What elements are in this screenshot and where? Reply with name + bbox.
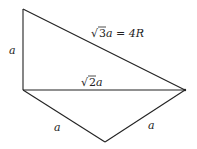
edge-left-bottom xyxy=(23,90,105,142)
label-bottom-left: a xyxy=(54,121,61,134)
label-left-edge: a xyxy=(9,44,16,57)
radicand: 3 xyxy=(99,27,106,40)
sqrt-symbol: √ xyxy=(81,76,89,89)
label-bottom-right: a xyxy=(148,119,155,132)
hypotenuse-expression: a = 4R xyxy=(106,27,144,40)
label-middle: √ 2 a xyxy=(81,76,103,89)
edge-bottom-right xyxy=(105,90,185,142)
label-hypotenuse: √ 3 a = 4R xyxy=(91,27,144,40)
geometry-diagram: a √ 3 a = 4R √ 2 a a a xyxy=(0,0,197,149)
radicand: 2 xyxy=(89,76,96,89)
sqrt-symbol: √ xyxy=(91,27,99,40)
middle-expression: a xyxy=(96,76,103,89)
vertex-right-dot xyxy=(184,89,186,91)
edge-top-right-hypotenuse xyxy=(23,9,185,90)
